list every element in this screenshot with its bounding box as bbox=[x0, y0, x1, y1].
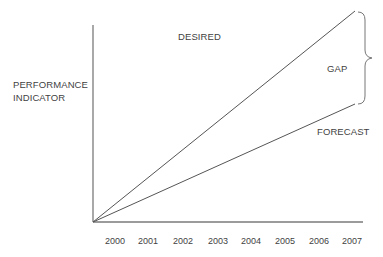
x-tick: 2006 bbox=[309, 236, 329, 246]
x-tick: 2007 bbox=[342, 236, 362, 246]
y-axis-label: PERFORMANCE INDICATOR bbox=[13, 78, 88, 104]
x-tick: 2000 bbox=[105, 236, 125, 246]
x-tick: 2003 bbox=[208, 236, 228, 246]
forecast-label: FORECAST bbox=[317, 126, 370, 137]
x-tick: 2004 bbox=[241, 236, 261, 246]
gap-label: GAP bbox=[327, 63, 347, 74]
x-axis-ticks: 2000 2001 2002 2003 2004 2005 2006 2007 bbox=[0, 236, 383, 250]
gap-brace-icon bbox=[358, 12, 372, 104]
desired-line bbox=[93, 11, 355, 222]
x-tick: 2001 bbox=[138, 236, 158, 246]
forecast-line bbox=[93, 104, 355, 222]
y-axis-label-line2: INDICATOR bbox=[13, 91, 88, 104]
desired-label: DESIRED bbox=[178, 31, 221, 42]
x-tick: 2005 bbox=[275, 236, 295, 246]
y-axis-label-line1: PERFORMANCE bbox=[13, 78, 88, 91]
x-tick: 2002 bbox=[173, 236, 193, 246]
